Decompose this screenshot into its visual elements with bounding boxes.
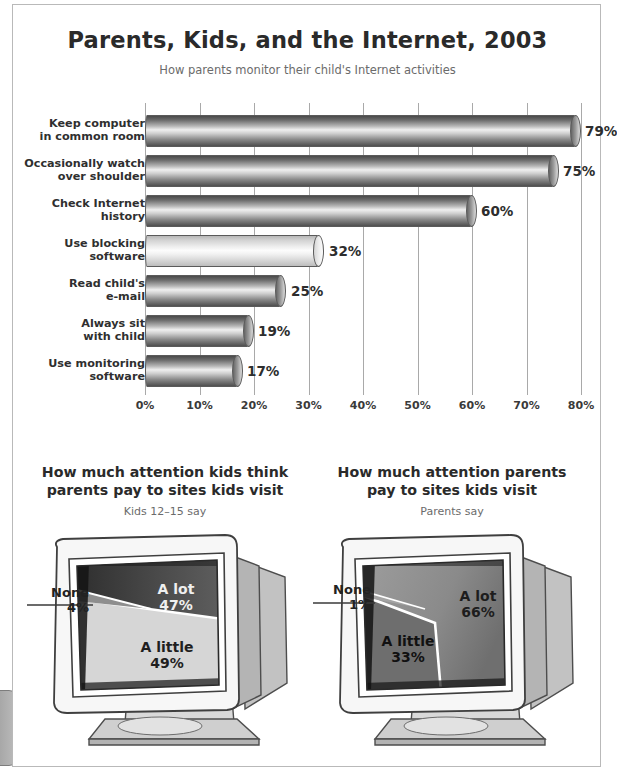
right-panel-title: How much attention parents pay to sites … [318,463,586,499]
bar-row-0 [145,115,576,147]
axis-tick-0: 0% [122,399,168,412]
bar-label-2-line1: Check Internet [0,197,145,210]
axis-tick-70: 70% [504,399,550,412]
left-panel-title-line2: parents pay to sites kids visit [31,481,299,499]
bar-row-5 [145,315,249,347]
bar-cap-4 [275,275,286,307]
left-alot-label: A lot [131,581,221,597]
bar-label-3-line2: software [0,250,145,263]
left-panel-title-line1: How much attention kids think [31,463,299,481]
right-alittle-callout: A little 33% [358,633,458,665]
axis-tick-80: 80% [558,399,604,412]
right-alittle-label: A little [358,633,458,649]
bar-value-6: 17% [247,363,279,379]
bar-label-2: Check Internet history [0,197,145,223]
axis-tick-40: 40% [340,399,386,412]
bar-label-4-line1: Read child's [0,277,145,290]
axis-tick-60: 60% [449,399,495,412]
left-none-label: None [29,585,89,600]
bar-cap-2 [466,195,477,227]
bar-label-3-line1: Use blocking [0,237,145,250]
bar-label-1-line1: Occasionally watch [0,157,145,170]
gridline-80 [581,103,582,395]
infographic-frame: Parents, Kids, and the Internet, 2003 Ho… [12,4,601,767]
bar-row-1 [145,155,554,187]
right-none-label: None [311,582,371,597]
left-alot-callout: A lot 47% [131,581,221,613]
bar-label-5-line2: with child [0,330,145,343]
left-alot-value: 47% [131,597,221,613]
bar-label-2-line2: history [0,210,145,223]
right-alot-value: 66% [433,604,523,620]
page-subtitle: How parents monitor their child's Intern… [13,63,602,77]
left-panel-subtitle: Kids 12–15 say [31,505,299,518]
bar-cap-3 [313,235,324,267]
axis-tick-30: 30% [286,399,332,412]
bar-cap-0 [570,115,581,147]
bar-label-0-line1: Keep computer [0,117,145,130]
bar-chart: Keep computer in common room Occasionall… [13,93,602,423]
bar-label-5: Always sit with child [0,317,145,343]
right-panel-title-line2: pay to sites kids visit [318,481,586,499]
right-alot-callout: A lot 66% [433,588,523,620]
bar-value-4: 25% [291,283,323,299]
right-none-callout: None 1% [311,582,371,612]
bar-label-1: Occasionally watch over shoulder [0,157,145,183]
axis-tick-10: 10% [177,399,223,412]
bar-label-5-line1: Always sit [0,317,145,330]
bar-row-2 [145,195,472,227]
page-title: Parents, Kids, and the Internet, 2003 [13,27,602,53]
right-none-value: 1% [311,597,371,612]
bar-label-3: Use blocking software [0,237,145,263]
left-alittle-label: A little [117,639,217,655]
left-panel-title: How much attention kids think parents pa… [31,463,299,499]
left-alittle-callout: A little 49% [117,639,217,671]
left-alittle-value: 49% [117,655,217,671]
left-none-callout: None 4% [29,585,89,615]
bar-value-3: 32% [329,243,361,259]
bar-value-2: 60% [481,203,513,219]
bar-cap-1 [548,155,559,187]
bar-label-0: Keep computer in common room [0,117,145,143]
bar-value-5: 19% [258,323,290,339]
bar-cap-5 [243,315,254,347]
bar-value-1: 75% [563,163,595,179]
bar-cap-6 [232,355,243,387]
bar-label-0-line2: in common room [0,130,145,143]
bar-label-6: Use monitoring software [0,357,145,383]
bar-label-6-line1: Use monitoring [0,357,145,370]
bar-label-6-line2: software [0,370,145,383]
right-alittle-value: 33% [358,649,458,665]
left-none-value: 4% [29,600,89,615]
right-panel-subtitle: Parents say [318,505,586,518]
axis-tick-50: 50% [395,399,441,412]
bar-value-0: 79% [585,123,617,139]
right-alot-label: A lot [433,588,523,604]
bar-row-4 [145,275,281,307]
right-panel-title-line1: How much attention parents [318,463,586,481]
bar-row-6 [145,355,238,387]
bar-row-3 [145,235,319,267]
bar-label-4-line2: e-mail [0,290,145,303]
bar-label-1-line2: over shoulder [0,170,145,183]
axis-tick-20: 20% [231,399,277,412]
bar-label-4: Read child's e-mail [0,277,145,303]
